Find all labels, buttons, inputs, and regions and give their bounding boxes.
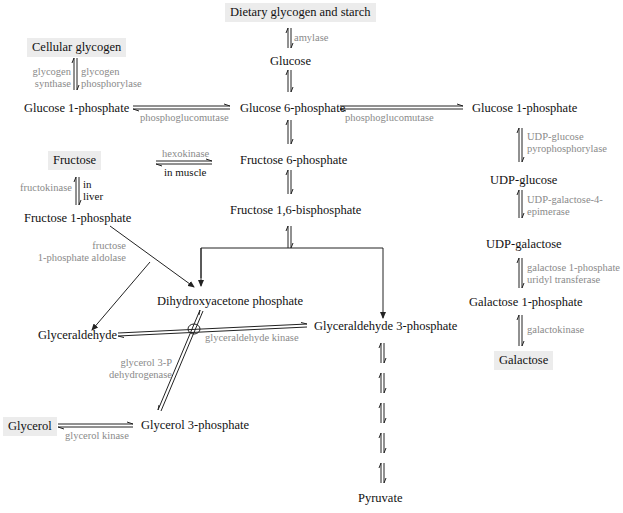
node-udp-galactose: UDP-galactose	[486, 237, 562, 252]
node-udp-glucose: UDP-glucose	[490, 173, 557, 188]
enzyme-label-line: glycogen	[81, 66, 142, 78]
node-glycerol: Glycerol	[3, 417, 57, 436]
enzyme-hexokinase: hexokinase	[162, 148, 209, 160]
enzyme-label-line: UDP-glucose	[527, 131, 607, 143]
enzyme-fructose-1-phosphate-aldolase: fructose 1-phosphate aldolase	[20, 240, 126, 264]
enzyme-glyceraldehyde-kinase: glyceraldehyde kinase	[205, 332, 299, 344]
enzyme-label-line: glycogen	[28, 66, 71, 78]
enzyme-label-line: UDP-galactose-4-	[527, 194, 603, 206]
node-glyceraldehyde: Glyceraldehyde	[38, 328, 117, 343]
node-glycerol-3-phosphate: Glycerol 3-phosphate	[141, 418, 249, 433]
node-glyceraldehyde-3-phosphate: Glyceraldehyde 3-phosphate	[314, 319, 457, 334]
node-fructose-1-phosphate: Fructose 1-phosphate	[24, 211, 131, 226]
label-in-muscle: in muscle	[164, 166, 206, 178]
node-fructose-1-6-bisphosphate: Fructose 1,6-bisphosphate	[230, 203, 361, 218]
node-glucose-1-phosphate-right: Glucose 1-phosphate	[472, 101, 577, 116]
enzyme-phosphoglucomutase-left: phosphoglucomutase	[140, 112, 229, 124]
node-cellular-glycogen: Cellular glycogen	[27, 38, 126, 57]
node-fructose-6-phosphate: Fructose 6-phosphate	[240, 153, 347, 168]
enzyme-glycogen-synthase: glycogen synthase	[28, 66, 71, 90]
node-pyruvate: Pyruvate	[358, 491, 402, 506]
node-galactose-1-phosphate: Galactose 1-phosphate	[469, 295, 583, 310]
node-galactose: Galactose	[494, 351, 553, 370]
node-glucose-6-phosphate: Glucose 6-phosphate	[240, 101, 345, 116]
enzyme-label-line: galactose 1-phosphate	[527, 262, 620, 274]
enzyme-glycogen-phosphorylase: glycogen phosphorylase	[81, 66, 142, 90]
node-fructose: Fructose	[48, 151, 101, 170]
reversible-arrow-amylase	[286, 28, 293, 48]
enzyme-label-line: pyrophosphorylase	[527, 143, 607, 155]
enzyme-udp-galactose-4-epimerase: UDP-galactose-4- epimerase	[527, 194, 603, 218]
enzyme-label-line: uridyl transferase	[527, 274, 620, 286]
label-line: liver	[83, 190, 103, 202]
node-glucose: Glucose	[270, 54, 311, 69]
label-in-liver: in liver	[83, 178, 103, 202]
enzyme-galactokinase: galactokinase	[527, 324, 584, 336]
node-glucose-1-phosphate-left: Glucose 1-phosphate	[24, 101, 129, 116]
enzyme-label-line: phosphorylase	[81, 78, 142, 90]
label-line: in	[83, 178, 103, 190]
enzyme-amylase: amylase	[294, 32, 328, 44]
enzyme-label-line: synthase	[28, 78, 71, 90]
enzyme-udp-glucose-pyrophosphorylase: UDP-glucose pyrophosphorylase	[527, 131, 607, 155]
enzyme-label-line: glycerol 3-P	[100, 357, 172, 369]
enzyme-label-line: epimerase	[527, 206, 603, 218]
enzyme-glycerol-kinase: glycerol kinase	[65, 430, 129, 442]
enzyme-phosphoglucomutase-right: phosphoglucomutase	[345, 112, 434, 124]
enzyme-fructokinase: fructokinase	[20, 182, 72, 194]
node-dihydroxyacetone-phosphate: Dihydroxyacetone phosphate	[157, 294, 303, 309]
enzyme-glycerol-3-p-dehydrogenase: glycerol 3-P dehydrogenase	[100, 357, 172, 381]
metabolic-pathway-diagram: Dietary glycogen and starch Glucose Cell…	[0, 0, 623, 513]
node-dietary-glycogen-starch: Dietary glycogen and starch	[225, 3, 376, 22]
enzyme-label-line: dehydrogenase	[100, 369, 172, 381]
enzyme-galactose-1-phosphate-uridyl-transferase: galactose 1-phosphate uridyl transferase	[527, 262, 620, 286]
enzyme-label-line: 1-phosphate aldolase	[20, 252, 126, 264]
enzyme-label-line: fructose	[20, 240, 126, 252]
